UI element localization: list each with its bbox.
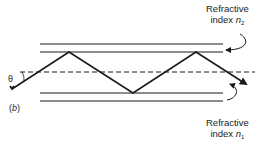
bottom-label-line2: index n1 bbox=[206, 128, 249, 143]
top-refractive-label: Refractive index n2 bbox=[206, 3, 249, 29]
bottom-label-line1: Refractive bbox=[206, 117, 249, 128]
bottom-refractive-label: Refractive index n1 bbox=[206, 117, 249, 143]
top-pointer-arrow bbox=[226, 34, 246, 50]
part-label: (b) bbox=[9, 103, 20, 113]
top-label-line2: index n2 bbox=[206, 14, 249, 29]
angle-arc bbox=[22, 72, 24, 81]
angle-label: θ bbox=[8, 74, 13, 84]
top-label-line1: Refractive bbox=[206, 3, 249, 14]
bottom-pointer-arrow bbox=[227, 84, 236, 100]
